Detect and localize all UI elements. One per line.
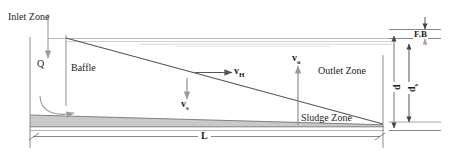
settling-depth-label: ds [407,82,420,94]
inflow-label: Q [37,59,44,69]
inlet-recirculation-arrow [40,96,74,114]
outlet-zone-label: Outlet Zone [318,66,366,76]
sedimentation-tank-diagram: Inlet Zone Q Baffle Outlet Zone Sludge Z… [0,0,449,165]
water-surface-lines [48,39,392,47]
baffle-label: Baffle [71,63,96,73]
ds-subscript: s [412,84,420,87]
overflow-velocity-label: vo [292,53,301,66]
freeboard-label: F.B [413,30,428,39]
total-depth-label: d [392,82,402,92]
vs-subscript: s [186,104,189,112]
inlet-zone-label: Inlet Zone [8,12,49,22]
ds-symbol: d [406,86,417,92]
length-label: L [198,131,211,141]
vo-subscript: o [297,58,301,66]
vh-subscript: H [239,71,244,79]
sludge-zone-label: Sludge Zone [301,113,352,123]
settling-velocity-label: vs [181,99,189,112]
tank-schematic-svg [0,0,449,165]
horizontal-velocity-label: vH [234,66,244,79]
